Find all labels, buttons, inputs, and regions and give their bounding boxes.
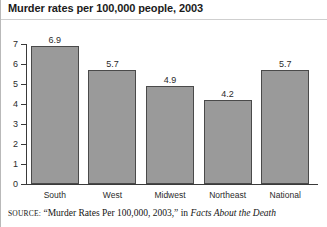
source-publication: Facts About the Death — [190, 208, 276, 218]
figure-left-border — [0, 0, 1, 227]
x-category-label: Midwest — [154, 190, 185, 200]
x-category-label: National — [270, 190, 301, 200]
bar-value-label: 5.7 — [106, 59, 119, 69]
bar-value-label: 4.2 — [221, 89, 234, 99]
bar-value-label: 5.7 — [279, 59, 292, 69]
y-tick-label: 0 — [13, 179, 18, 189]
y-tick-label: 3 — [13, 119, 18, 129]
plot-area: 01234567 6.95.74.94.25.7 SouthWestMidwes… — [26, 44, 314, 184]
bar-value-label: 4.9 — [164, 75, 177, 85]
bar: 6.9 — [31, 46, 79, 184]
x-category-label: West — [103, 190, 122, 200]
y-tick-label: 4 — [13, 99, 18, 109]
y-tick-mark — [21, 164, 26, 165]
x-category-label: Northeast — [209, 190, 246, 200]
source-note: SOURCE: “Murder Rates Per 100,000, 2003,… — [8, 207, 324, 220]
y-tick-mark — [21, 44, 26, 45]
y-tick-label: 2 — [13, 139, 18, 149]
x-axis-line — [21, 184, 318, 185]
y-tick-mark — [21, 64, 26, 65]
y-tick-mark — [21, 144, 26, 145]
bar: 4.9 — [146, 86, 194, 184]
y-tick-mark — [21, 124, 26, 125]
y-tick-label: 5 — [13, 79, 18, 89]
y-tick-mark — [21, 104, 26, 105]
y-tick-label: 7 — [13, 39, 18, 49]
chart-figure: Murder rates per 100,000 people, 2003 01… — [0, 0, 327, 227]
bar: 4.2 — [204, 100, 252, 184]
source-citation: “Murder Rates Per 100,000, 2003,” in — [43, 208, 188, 218]
y-tick-label: 1 — [13, 159, 18, 169]
bar: 5.7 — [261, 70, 309, 184]
y-tick-mark — [21, 184, 26, 185]
source-label: SOURCE: — [8, 209, 41, 218]
y-tick-mark — [21, 84, 26, 85]
title-divider — [1, 19, 327, 20]
y-axis-line — [26, 44, 27, 185]
bar: 5.7 — [88, 70, 136, 184]
chart-title: Murder rates per 100,000 people, 2003 — [8, 2, 203, 14]
x-category-label: South — [44, 190, 66, 200]
bar-value-label: 6.9 — [49, 35, 62, 45]
y-tick-label: 6 — [13, 59, 18, 69]
